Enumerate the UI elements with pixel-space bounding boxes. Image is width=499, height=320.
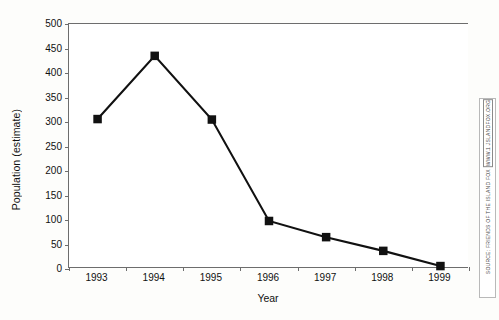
data-point-marker [150, 52, 159, 61]
x-axis-tick [298, 267, 299, 271]
source-credit-url: WWW.1 JSLANDFOX.ORG [483, 99, 493, 167]
x-axis-title: Year [68, 292, 468, 304]
data-point-marker [265, 217, 274, 226]
x-axis-tick-label: 1997 [314, 272, 336, 283]
y-axis-tick [65, 98, 69, 99]
y-axis-tick-label: 200 [45, 165, 62, 176]
x-axis-tick [183, 267, 184, 271]
x-axis-tick [469, 267, 470, 271]
source-credit-text: SOURCE: FRIENDS OF THE ISLAND FOX WWW.1 … [480, 99, 496, 274]
data-point-marker [322, 233, 331, 242]
x-axis-tick-label: 1998 [371, 272, 393, 283]
data-point-marker [436, 262, 445, 271]
y-axis-tick-label: 0 [56, 263, 62, 274]
y-axis-tick-label: 500 [45, 18, 62, 29]
x-axis-tick [355, 267, 356, 271]
data-point-marker [379, 247, 388, 256]
source-credit-box: SOURCE: FRIENDS OF THE ISLAND FOX WWW.1 … [479, 98, 496, 298]
y-axis-tick [65, 147, 69, 148]
chart-figure: Population (estimate) 050100150200250300… [0, 0, 499, 320]
x-axis-tick [126, 267, 127, 271]
y-axis-tick [65, 73, 69, 74]
source-credit-prefix: SOURCE: FRIENDS OF THE ISLAND FOX [485, 169, 491, 274]
x-axis-tick-labels: 1993199419951996199719981999 [68, 272, 468, 288]
y-axis-tick-label: 400 [45, 67, 62, 78]
x-axis-tick-label: 1993 [85, 272, 107, 283]
y-axis-tick-label: 450 [45, 42, 62, 53]
y-axis-tick-label: 350 [45, 91, 62, 102]
y-axis-tick [65, 122, 69, 123]
y-axis-title: Population (estimate) [5, 0, 27, 320]
y-axis-tick [65, 220, 69, 221]
x-axis-tick-label: 1996 [257, 272, 279, 283]
data-series-line [69, 24, 469, 269]
x-axis-tick-label: 1994 [143, 272, 165, 283]
x-axis-tick [69, 267, 70, 271]
data-point-marker [93, 115, 102, 124]
x-axis-tick-label: 1995 [200, 272, 222, 283]
series-markers [93, 52, 444, 271]
y-axis-tick [65, 49, 69, 50]
y-axis-tick-label: 50 [51, 238, 62, 249]
y-axis-tick [65, 171, 69, 172]
y-axis-tick-label: 150 [45, 189, 62, 200]
y-axis-tick [65, 24, 69, 25]
x-axis-tick [240, 267, 241, 271]
series-polyline [98, 56, 441, 266]
y-axis-title-label: Population (estimate) [10, 109, 22, 210]
plot-area [68, 23, 468, 268]
x-axis-tick-label: 1999 [428, 272, 450, 283]
x-axis-tick [412, 267, 413, 271]
y-axis-tick [65, 245, 69, 246]
y-axis-tick-label: 300 [45, 116, 62, 127]
y-axis-tick-labels: 050100150200250300350400450500 [26, 0, 62, 320]
y-axis-tick-label: 100 [45, 214, 62, 225]
y-axis-tick [65, 196, 69, 197]
data-point-marker [208, 115, 217, 124]
y-axis-tick-label: 250 [45, 140, 62, 151]
